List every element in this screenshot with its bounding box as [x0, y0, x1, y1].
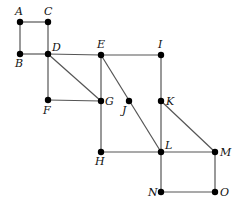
- node-g: [98, 98, 104, 104]
- node-label-a: A: [14, 5, 23, 18]
- graph-diagram: ACBDEIFGJKHLMNO: [0, 0, 242, 207]
- node-label-m: M: [219, 146, 232, 159]
- node-label-b: B: [14, 57, 23, 70]
- node-m: [212, 149, 218, 155]
- node-label-h: H: [94, 155, 105, 168]
- edge-d-g: [48, 54, 101, 101]
- node-j: [126, 98, 132, 104]
- node-label-i: I: [157, 38, 163, 51]
- node-label-o: O: [220, 186, 229, 199]
- node-label-d: D: [51, 41, 61, 54]
- node-k: [158, 98, 164, 104]
- node-i: [158, 52, 164, 58]
- node-o: [212, 189, 218, 195]
- node-label-k: K: [165, 95, 175, 108]
- node-label-c: C: [44, 5, 53, 18]
- node-e: [98, 52, 104, 58]
- node-label-j: J: [120, 104, 127, 117]
- node-label-l: L: [164, 139, 172, 152]
- node-l: [158, 149, 164, 155]
- node-label-n: N: [147, 186, 158, 199]
- node-n: [158, 189, 164, 195]
- edge-d-e: [48, 54, 101, 55]
- node-f: [45, 97, 51, 103]
- node-d: [45, 51, 51, 57]
- node-a: [17, 19, 23, 25]
- edge-f-g: [48, 100, 101, 101]
- node-label-g: G: [105, 95, 114, 108]
- node-label-f: F: [42, 104, 51, 117]
- node-label-e: E: [96, 38, 105, 51]
- node-c: [45, 19, 51, 25]
